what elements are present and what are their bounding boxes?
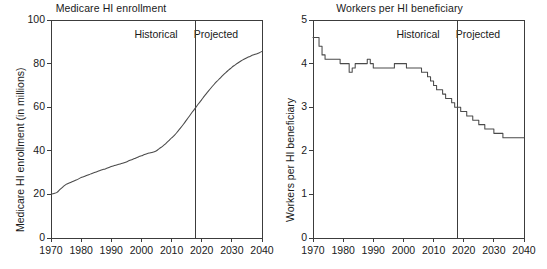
plot-area — [0, 0, 272, 269]
data-series-line — [51, 51, 262, 194]
chart-panel-medicare-hi-enrollment: Medicare HI enrollment Medicare HI enrol… — [0, 0, 272, 269]
data-series-line — [313, 37, 524, 137]
figure-root: Medicare HI enrollment Medicare HI enrol… — [0, 0, 547, 269]
plot-area — [272, 0, 547, 269]
chart-panel-workers-per-hi-beneficiary: Workers per HI beneficiary Workers per H… — [272, 0, 547, 269]
